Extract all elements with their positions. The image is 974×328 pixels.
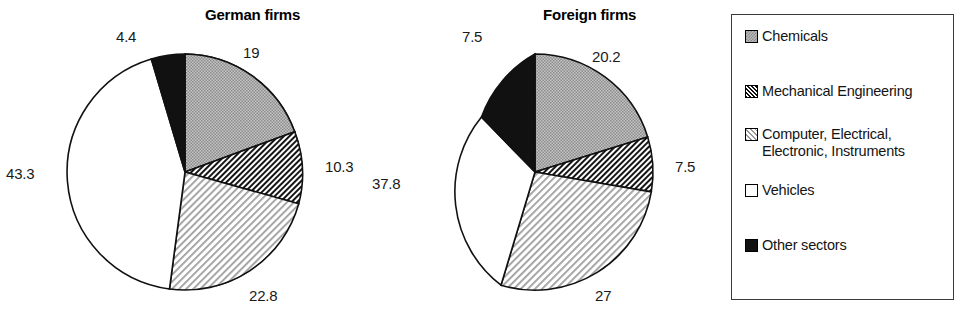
slice-label-foreign-vehicles: 37.8 bbox=[372, 175, 400, 192]
slice-label-german-mechanical-engineering: 10.3 bbox=[325, 158, 353, 175]
legend-label-other-sectors: Other sectors bbox=[762, 237, 846, 254]
legend-label-vehicles: Vehicles bbox=[762, 182, 814, 199]
legend-swatch-solid-black-icon bbox=[745, 239, 758, 252]
legend-swatch-white-outline-icon bbox=[745, 184, 758, 197]
pie-svg-german-firms bbox=[0, 0, 370, 328]
pie-svg-foreign-firms bbox=[370, 0, 720, 328]
slice-label-foreign-chemicals: 20.2 bbox=[592, 48, 620, 65]
pie-panel-german-firms: German firms bbox=[0, 0, 370, 328]
chart-legend: Chemicals Mechanical Engineering Compute… bbox=[731, 14, 954, 300]
legend-item-chemicals: Chemicals bbox=[745, 28, 947, 45]
pie-chart-figure: German firms bbox=[0, 0, 974, 328]
pie-panel-foreign-firms: Foreign firms bbox=[370, 0, 720, 328]
legend-swatch-light-hatch-icon bbox=[745, 128, 758, 141]
slice-label-foreign-mechanical-engineering: 7.5 bbox=[675, 158, 695, 175]
legend-item-other-sectors: Other sectors bbox=[745, 237, 947, 254]
slice-label-german-chemicals: 19 bbox=[243, 44, 259, 61]
legend-list: Chemicals Mechanical Engineering Compute… bbox=[745, 28, 947, 254]
legend-label-computer-electrical: Computer, Electrical, Electronic, Instru… bbox=[762, 126, 947, 160]
slice-label-foreign-computer: 27 bbox=[595, 287, 611, 304]
legend-label-mechanical-engineering: Mechanical Engineering bbox=[762, 83, 912, 100]
legend-item-computer-electrical: Computer, Electrical, Electronic, Instru… bbox=[745, 126, 947, 160]
slice-label-german-vehicles: 43.3 bbox=[6, 165, 34, 182]
legend-item-mechanical-engineering: Mechanical Engineering bbox=[745, 83, 947, 100]
legend-label-chemicals: Chemicals bbox=[762, 28, 828, 45]
legend-item-vehicles: Vehicles bbox=[745, 182, 947, 199]
legend-swatch-dotted-gray-icon bbox=[745, 30, 758, 43]
slice-label-foreign-other-sectors: 7.5 bbox=[462, 28, 482, 45]
slice-label-german-other-sectors: 4.4 bbox=[116, 28, 136, 45]
legend-swatch-dark-hatch-icon bbox=[745, 85, 758, 98]
slice-label-german-computer: 22.8 bbox=[249, 287, 277, 304]
